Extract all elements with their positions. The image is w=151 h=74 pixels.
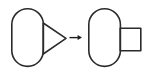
right-capsule-shape [89, 9, 121, 67]
left-triangle-appendage-icon [43, 23, 66, 54]
transforms-to-arrow-icon [70, 35, 83, 40]
left-capsule-shape [12, 9, 44, 67]
shape-transformation-diagram: Shape transformation: triangle appendage… [0, 0, 151, 74]
arrow-head [78, 35, 82, 40]
right-shape-group [89, 9, 141, 67]
left-shape-group [12, 9, 66, 67]
diagram-svg: Shape transformation: triangle appendage… [0, 0, 151, 74]
right-rectangle-appendage-icon [120, 28, 141, 51]
